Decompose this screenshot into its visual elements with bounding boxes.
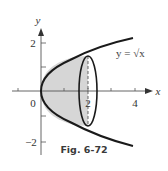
x-axis-arrow-icon bbox=[145, 88, 153, 94]
y-tick-label-2: 2 bbox=[30, 37, 36, 49]
x-tick-label-0: 0 bbox=[30, 97, 36, 109]
curve-equation-label: y = √x bbox=[116, 47, 145, 59]
x-tick-label-2: 2 bbox=[85, 97, 91, 109]
y-axis-label: y bbox=[35, 14, 41, 26]
x-axis-label: x bbox=[155, 85, 161, 97]
y-axis-arrow-icon bbox=[38, 28, 44, 36]
x-tick-label-4: 4 bbox=[132, 97, 138, 109]
figure-caption: Fig. 6-72 bbox=[0, 144, 168, 155]
